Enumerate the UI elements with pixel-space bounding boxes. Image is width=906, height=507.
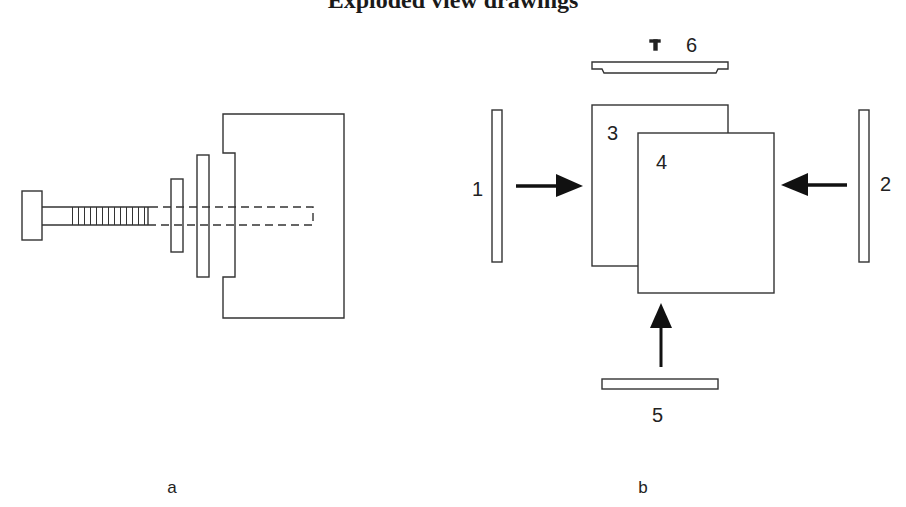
part-1-plate bbox=[492, 110, 502, 262]
figure-a-label: a bbox=[167, 478, 177, 497]
part-5-plate bbox=[602, 379, 718, 389]
figure-b bbox=[492, 40, 869, 389]
part-2-plate bbox=[859, 110, 869, 262]
part-6-plate bbox=[592, 62, 728, 73]
part-label-3: 3 bbox=[607, 122, 618, 144]
figure-b-label: b bbox=[638, 478, 647, 497]
arrow-right-icon bbox=[516, 174, 583, 197]
screw-thread bbox=[72, 207, 148, 225]
part-label-1: 1 bbox=[472, 178, 483, 200]
diagram-canvas: a 1 2 3 4 bbox=[0, 0, 906, 507]
arrow-up-icon bbox=[650, 303, 672, 367]
figure-a bbox=[22, 114, 344, 318]
part-label-4: 4 bbox=[656, 151, 667, 173]
screw-head bbox=[22, 191, 42, 240]
part-label-5: 5 bbox=[652, 404, 663, 426]
small-washer bbox=[171, 179, 183, 252]
housing-block bbox=[223, 114, 344, 318]
part-label-2: 2 bbox=[880, 173, 891, 195]
part-6-fastener-stem bbox=[654, 40, 657, 50]
part-label-6: 6 bbox=[686, 34, 697, 56]
arrow-left-icon bbox=[781, 173, 847, 196]
hidden-screw-hole bbox=[150, 207, 313, 225]
large-washer bbox=[197, 155, 209, 277]
